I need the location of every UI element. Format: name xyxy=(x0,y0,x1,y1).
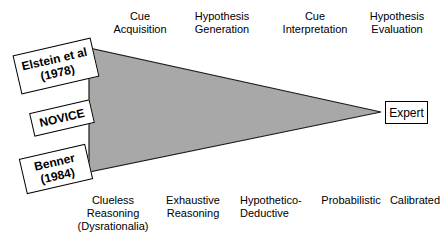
bottom-label-clueless-reasoning: Clueless Reasoning (Dysrationalia) xyxy=(73,194,153,233)
bottom-label-exhaustive-reasoning: Exhaustive Reasoning xyxy=(157,194,229,220)
expert-box: Expert xyxy=(385,101,428,124)
wedge-polygon xyxy=(89,48,381,172)
top-label-cue-acquisition: Cue Acquisition xyxy=(103,10,177,36)
top-label-hypothesis-evaluation: Hypothesis Evaluation xyxy=(358,10,436,36)
tag-box-elstein: Elstein et al (1978) xyxy=(13,38,100,95)
expertise-continuum-figure: Cue Acquisition Hypothesis Generation Cu… xyxy=(0,0,442,241)
top-label-cue-interpretation: Cue Interpretation xyxy=(276,10,354,36)
bottom-label-probabilistic: Probabilistic xyxy=(316,194,386,207)
top-label-hypothesis-generation: Hypothesis Generation xyxy=(183,10,261,36)
expert-box-label: Expert xyxy=(389,106,424,120)
bottom-label-hypothetico-deductive: Hypothetico- Deductive xyxy=(240,194,312,220)
tag-box-novice: NOVICE xyxy=(29,99,95,136)
tag-box-novice-line-1: NOVICE xyxy=(38,106,86,130)
tag-box-benner: Benner (1984) xyxy=(19,144,93,194)
bottom-label-calibrated: Calibrated xyxy=(388,194,442,207)
